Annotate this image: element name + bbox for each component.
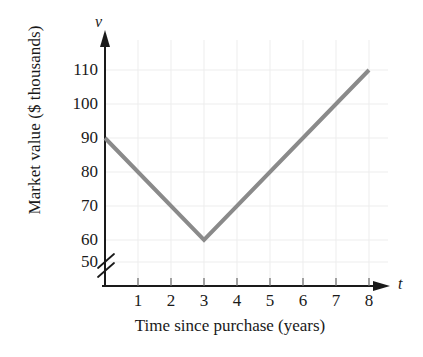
y-tick-label-90: 90: [56, 129, 98, 146]
y-axis-arrowhead: [100, 30, 110, 47]
y-tick-label-50: 50: [56, 253, 98, 270]
y-tick-label-110: 110: [56, 61, 98, 78]
x-tick-label-8: 8: [359, 292, 379, 309]
y-axis: [100, 30, 110, 286]
x-tick-marks: [138, 278, 369, 286]
x-tick-label-5: 5: [260, 292, 280, 309]
x-axis: [102, 281, 390, 291]
x-tick-label-3: 3: [194, 292, 214, 309]
horizontal-gridlines: [105, 70, 388, 262]
x-tick-label-4: 4: [227, 292, 247, 309]
y-tick-label-80: 80: [56, 163, 98, 180]
chart-figure: v t 110 100 90 80 70 60 50 1 2 3 4 5 6 7…: [0, 0, 423, 357]
x-axis-title: Time since purchase (years): [60, 316, 400, 336]
x-tick-label-6: 6: [293, 292, 313, 309]
x-axis-arrowhead: [373, 281, 390, 291]
y-tick-label-60: 60: [56, 231, 98, 248]
y-tick-label-70: 70: [56, 197, 98, 214]
x-tick-label-7: 7: [326, 292, 346, 309]
y-axis-variable-label: v: [95, 14, 102, 30]
y-tick-label-100: 100: [56, 95, 98, 112]
x-tick-label-2: 2: [161, 292, 181, 309]
vertical-gridlines: [138, 40, 369, 284]
x-axis-variable-label: t: [398, 276, 402, 292]
y-axis-title: Market value ($ thousands): [25, 0, 45, 250]
x-tick-label-1: 1: [128, 292, 148, 309]
